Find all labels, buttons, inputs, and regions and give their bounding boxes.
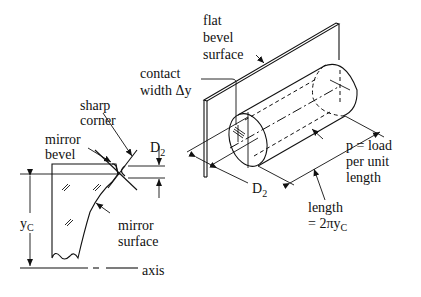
flat-bevel-leader <box>256 55 264 63</box>
label-mirror-surface-1: mirror <box>118 218 154 233</box>
label-load-3: length <box>346 170 381 185</box>
contact-width-leader <box>201 79 236 125</box>
label-load-1: p = load <box>346 138 392 153</box>
label-flat: flat <box>203 13 222 28</box>
mirror-surface-leader <box>96 203 110 213</box>
mirror-bevel-leader <box>88 148 111 162</box>
label-length-1: length <box>308 200 343 215</box>
length-leader <box>314 169 325 200</box>
label-surface: surface <box>203 47 243 62</box>
label-length-2: = 2πyC <box>308 216 347 233</box>
label-corner: corner <box>80 113 116 128</box>
d2-dimension-right <box>187 117 258 183</box>
label-mirror-bevel-1: mirror <box>45 132 81 147</box>
label-d2-right: D2 <box>252 181 267 199</box>
label-contact: contact <box>140 66 181 81</box>
diagram-canvas: sharp corner mirror bevel D2 yC mirror s… <box>0 0 421 297</box>
label-width-dy: width Δy <box>140 83 191 98</box>
label-d2-left: D2 <box>150 140 165 158</box>
label-mirror-bevel-2: bevel <box>45 147 75 162</box>
label-sharp: sharp <box>80 98 110 113</box>
label-load-2: per unit <box>346 154 389 169</box>
label-mirror-surface-2: surface <box>118 234 158 249</box>
label-axis: axis <box>142 263 165 278</box>
label-yc: yC <box>20 216 34 233</box>
label-bevel: bevel <box>203 30 233 45</box>
